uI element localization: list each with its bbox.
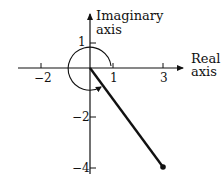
imaginary-axis-label-line2: axis [96,22,122,37]
vector-endpoint-dot [160,164,166,170]
imag-tick-label--4: −4 [72,161,90,175]
complex-plane-diagram: −2 1 3 1 −2 −4 Imaginary axis Real axis [0,0,222,187]
real-tick-label-1: 1 [110,71,118,85]
imaginary-axis-label-line1: Imaginary [96,8,164,23]
real-tick-label--2: −2 [34,71,52,85]
imag-tick-label--2: −2 [72,110,90,124]
complex-vector [90,68,163,167]
real-axis-label-line2: axis [191,64,217,79]
imag-tick-label-1: 1 [78,35,86,49]
real-tick-label-3: 3 [160,71,168,85]
